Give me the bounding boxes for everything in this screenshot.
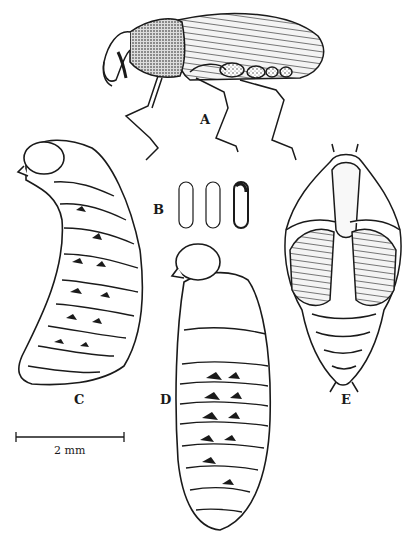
figure-plate: A B C D E 2 mm: [0, 0, 420, 550]
panel-label-b: B: [153, 202, 164, 217]
illustration-canvas: [0, 0, 420, 550]
egg-2: [206, 182, 220, 228]
adult-weevil-drawing: [103, 13, 323, 160]
scale-bar-label: 2 mm: [54, 444, 85, 457]
scale-bar: [16, 432, 124, 442]
egg-1: [179, 182, 193, 228]
eggs-drawing: [179, 182, 248, 228]
larva-c-head: [24, 142, 64, 174]
larva-c-drawing: [18, 140, 142, 384]
panel-label-d: D: [160, 392, 171, 407]
larva-d-head: [176, 244, 220, 280]
panel-label-e: E: [341, 392, 351, 407]
pupa-drawing: [285, 144, 401, 392]
panel-label-a: A: [200, 112, 210, 127]
larva-d-drawing: [172, 244, 270, 530]
panel-label-c: C: [74, 392, 84, 407]
